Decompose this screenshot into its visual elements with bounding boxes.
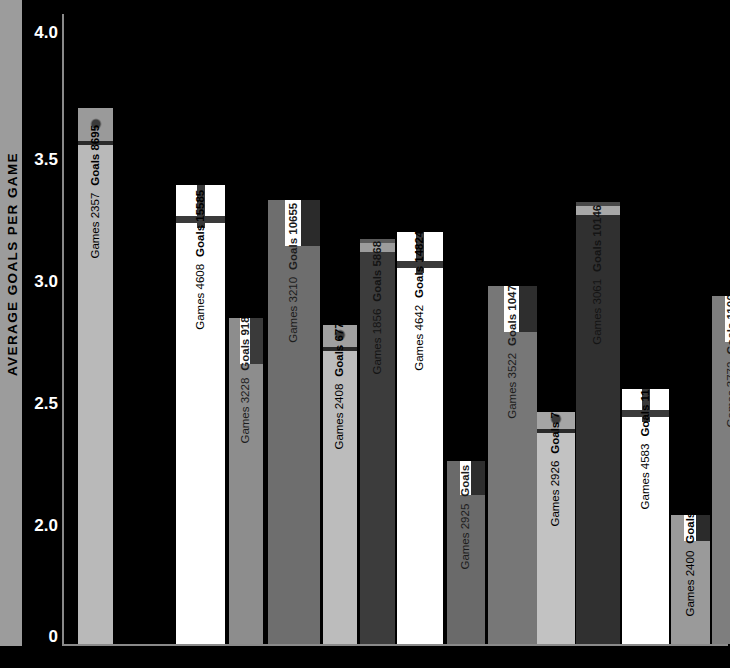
bar[interactable]: Games 2400Goals 48902.04 — [671, 515, 710, 644]
bar-flag-fill — [488, 286, 537, 644]
bar[interactable]: Games 3772Goals 110692.93 — [712, 296, 730, 644]
bar[interactable]: Games 2357Goals 86953.69 — [78, 108, 113, 644]
bar-flag-fill — [397, 232, 443, 644]
bar-flag-fill — [78, 108, 113, 644]
bar-flag-fill — [576, 202, 620, 644]
chart-root: AVERAGE GOALS PER GAME 4.03.53.02.52.00 … — [0, 0, 730, 668]
bar[interactable]: Games 3228Goals 91812.84 — [229, 318, 263, 644]
bar[interactable]: Games 4642Goals 148243.19 — [397, 232, 443, 644]
y-axis-tick-labels: 4.03.53.02.52.00 — [0, 0, 58, 668]
flag-emblem-icon — [552, 415, 561, 424]
bar[interactable]: Games 3210Goals 106553.32 — [268, 200, 320, 644]
bar-flag-fill — [537, 412, 575, 644]
bar[interactable]: Games 4583Goals 116872.55 — [622, 389, 669, 644]
bar[interactable]: Games 3522Goals 104762.97 — [488, 286, 537, 644]
bar-flag-fill — [229, 318, 263, 644]
bar-flag-fill — [671, 515, 710, 644]
y-tick-label-3-5: 3.5 — [4, 150, 58, 170]
bar-flag-fill — [360, 239, 395, 644]
y-tick-label-2-0: 2.0 — [4, 516, 58, 536]
flag-emblem-icon — [91, 119, 100, 128]
y-tick-label-4-0: 4.0 — [4, 23, 58, 43]
y-tick-label-3-0: 3.0 — [4, 272, 58, 292]
bar[interactable]: Games 2408Goals 67732.81 — [323, 325, 357, 644]
flag-emblem-icon — [336, 331, 345, 340]
bar-flag-fill — [712, 296, 730, 644]
bar-flag-fill — [323, 325, 357, 644]
bar-flag-fill — [176, 185, 225, 644]
bar-flag-fill — [622, 389, 669, 644]
bar-flag-fill — [268, 200, 320, 644]
bar[interactable]: Games 1856Goals 58683.16 — [360, 239, 395, 644]
y-tick-label-0: 0 — [4, 627, 58, 647]
bar-flag-fill — [447, 461, 485, 644]
bar[interactable]: Games 2925Goals 66242.26 — [447, 461, 485, 644]
bar[interactable]: Games 3061Goals 101463.31 — [576, 202, 620, 644]
bar[interactable]: Games 2926Goals 72082.46 — [537, 412, 575, 644]
y-tick-label-2-5: 2.5 — [4, 394, 58, 414]
bar[interactable]: Games 4608Goals 155853.38 — [176, 185, 225, 644]
plot-area: Games 2357Goals 86953.69Games 4608Goals … — [64, 0, 730, 646]
